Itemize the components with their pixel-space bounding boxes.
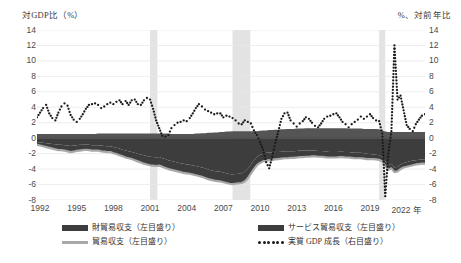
gdp-growth-dot (261, 146, 263, 148)
y-tick-right: 2 (429, 117, 455, 127)
gdp-growth-dot (382, 151, 384, 153)
gdp-growth-dot (231, 117, 233, 119)
gdp-growth-dot (396, 92, 398, 94)
gdp-growth-dot (269, 164, 271, 166)
gdp-growth-dot (118, 99, 120, 101)
gdp-growth-dot (387, 152, 389, 154)
gdp-growth-dot (390, 130, 392, 132)
gdp-growth-dot (265, 161, 267, 163)
gdp-growth-dot (280, 118, 282, 120)
gdp-growth-dot (394, 63, 396, 65)
gdp-growth-dot (416, 121, 418, 123)
gdp-growth-dot (388, 146, 390, 148)
gdp-growth-dot (242, 121, 244, 123)
gdp-growth-dot (156, 122, 158, 124)
gdp-growth-dot (68, 111, 70, 113)
gdp-growth-dot (412, 130, 414, 132)
gdp-growth-dot (398, 96, 400, 98)
y-tick-right: 6 (429, 86, 455, 96)
gdp-growth-dot (380, 126, 382, 128)
gdp-growth-dot (344, 123, 346, 125)
gdp-growth-dot (392, 92, 394, 94)
gdp-growth-dot (370, 115, 372, 117)
gdp-growth-dot (389, 136, 391, 138)
gdp-growth-dot (391, 105, 393, 107)
gdp-growth-dot (393, 67, 395, 69)
gdp-growth-dot (393, 44, 395, 46)
gdp-growth-dot (407, 126, 409, 128)
gdp-growth-dot (395, 79, 397, 81)
gdp-growth-dot (192, 112, 194, 114)
gdp-growth-dot (357, 118, 359, 120)
x-tick: 2004 (177, 203, 196, 213)
gdp-growth-dot (383, 173, 385, 175)
gdp-growth-dot (40, 109, 42, 111)
gdp-growth-dot (379, 123, 381, 125)
gdp-growth-dot (82, 113, 84, 115)
gdp-growth-dot (385, 179, 387, 181)
gdp-growth-dot (332, 113, 334, 115)
gdp-growth-dot (385, 182, 387, 184)
gdp-growth-dot (66, 105, 68, 107)
gdp-growth-dot (402, 109, 404, 111)
gdp-growth-dot (109, 101, 111, 103)
gdp-growth-dot (386, 175, 388, 177)
gdp-growth-dot (262, 149, 264, 151)
gdp-growth-dot (385, 188, 387, 190)
gdp-growth-dot (403, 112, 405, 114)
gdp-growth-dot (393, 47, 395, 49)
gdp-growth-dot (388, 149, 390, 151)
gdp-growth-dot (413, 127, 415, 129)
gdp-growth-dot (401, 100, 403, 102)
gdp-growth-dot (381, 139, 383, 141)
gdp-growth-dot (193, 110, 195, 112)
gdp-growth-dot (386, 166, 388, 168)
gdp-growth-dot (409, 128, 411, 130)
gdp-growth-dot (386, 172, 388, 174)
gdp-growth-dot (392, 79, 394, 81)
gdp-growth-dot (278, 127, 280, 129)
gdp-growth-dot (340, 118, 342, 120)
gdp-growth-dot (381, 136, 383, 138)
gdp-growth-dot (244, 119, 246, 121)
gdp-growth-dot (400, 97, 402, 99)
legend-label: 貿易収支（左目盛り） (92, 238, 172, 246)
gdp-growth-dot (256, 134, 258, 136)
y-tick-right: 14 (429, 25, 455, 35)
gdp-growth-dot (390, 127, 392, 129)
gdp-growth-dot (302, 120, 304, 122)
gdp-growth-dot (228, 115, 230, 117)
gdp-growth-dot (39, 112, 41, 114)
gdp-growth-dot (54, 119, 56, 121)
gdp-growth-dot (103, 105, 105, 107)
gdp-growth-dot (337, 114, 339, 116)
gdp-growth-dot (225, 115, 227, 117)
gdp-growth-dot (216, 112, 218, 114)
gdp-growth-dot (308, 118, 310, 120)
gdp-growth-dot (354, 121, 356, 123)
gdp-growth-dot (390, 124, 392, 126)
services-balance-area (37, 128, 425, 138)
legend-label: 実質 GDP 成長（右目盛り） (288, 238, 388, 246)
gdp-growth-dot (424, 113, 425, 115)
plot-svg (37, 30, 425, 200)
gdp-growth-dot (395, 70, 397, 72)
gdp-growth-dot (234, 119, 236, 121)
y-tick-right: -4 (429, 164, 455, 174)
x-tick: 2001 (141, 203, 160, 213)
gdp-growth-dot (222, 116, 224, 118)
gdp-growth-dot (176, 122, 178, 124)
gdp-growth-dot (97, 104, 99, 106)
gdp-growth-dot (106, 103, 108, 105)
gdp-growth-dot (383, 170, 385, 172)
gdp-growth-dot (392, 89, 394, 91)
x-tick: 2007 (214, 203, 233, 213)
gdp-growth-dot (391, 111, 393, 113)
gdp-growth-dot (395, 73, 397, 75)
gdp-growth-dot (250, 122, 252, 124)
gdp-growth-dot (405, 121, 407, 123)
gdp-growth-dot (47, 109, 49, 111)
gdp-growth-dot (323, 118, 325, 120)
gdp-growth-dot (341, 121, 343, 123)
gdp-growth-dot (303, 118, 305, 120)
